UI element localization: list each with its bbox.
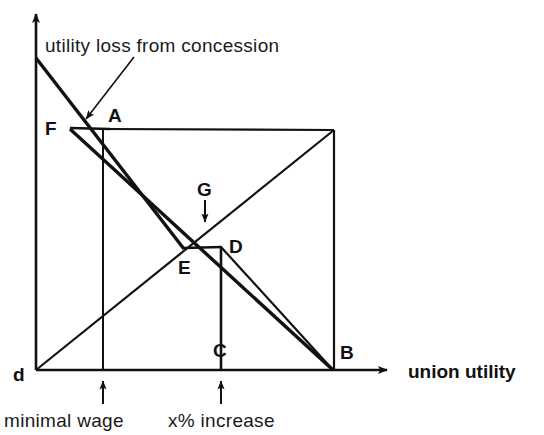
point-label-C: C [213, 340, 227, 361]
diagonal-d-to-top-right [36, 130, 334, 370]
box-top-edge [103, 129, 334, 130]
point-label-A: A [108, 105, 122, 126]
bottom-annotation-minimal-wage: minimal wage [4, 410, 124, 431]
segment-e-to-d [183, 247, 222, 248]
point-label-E: E [178, 257, 191, 278]
bargaining-diagram-svg: utility loss from concession F A G E D C… [0, 0, 544, 435]
point-label-G: G [197, 179, 212, 200]
segment-d-to-b [221, 247, 333, 370]
point-label-B: B [340, 342, 354, 363]
segment-f-to-a [70, 128, 110, 129]
iso-utility-line-lower [70, 129, 333, 370]
point-label-d: d [13, 364, 25, 385]
diagram-canvas: utility loss from concession F A G E D C… [0, 0, 544, 435]
annotation-utility-loss: utility loss from concession [45, 35, 279, 56]
x-axis-label: union utility [408, 361, 516, 382]
bottom-annotation-x-increase: x% increase [168, 410, 275, 431]
point-label-D: D [229, 236, 243, 257]
point-label-F: F [45, 118, 57, 139]
iso-utility-line-upper [36, 58, 184, 249]
